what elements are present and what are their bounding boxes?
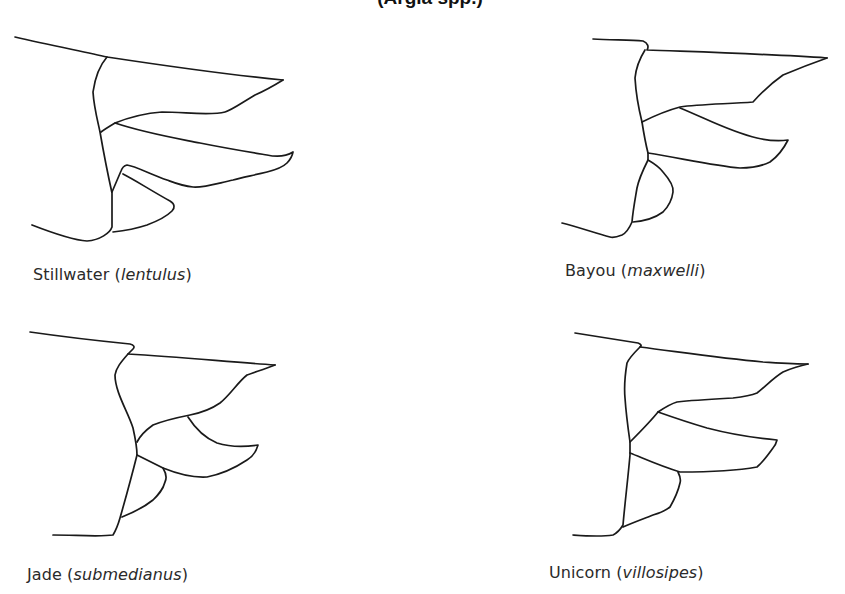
label-stillwater: Stillwater (lentulus) (33, 265, 192, 284)
drawing-bayou (562, 39, 827, 237)
label-jade: Jade (submedianus) (27, 565, 188, 584)
scientific-name: maxwelli (627, 261, 699, 280)
common-name: Unicorn (549, 563, 611, 582)
drawing-stillwater (15, 37, 293, 241)
label-unicorn: Unicorn (villosipes) (549, 563, 704, 582)
drawing-unicorn (573, 333, 808, 536)
scientific-name: lentulus (121, 265, 186, 284)
common-name: Bayou (565, 261, 616, 280)
appendage-drawings (0, 0, 845, 594)
scientific-name: villosipes (623, 563, 698, 582)
common-name: Stillwater (33, 265, 109, 284)
drawing-jade (30, 332, 275, 536)
common-name: Jade (27, 565, 62, 584)
scientific-name: submedianus (73, 565, 181, 584)
label-bayou: Bayou (maxwelli) (565, 261, 706, 280)
